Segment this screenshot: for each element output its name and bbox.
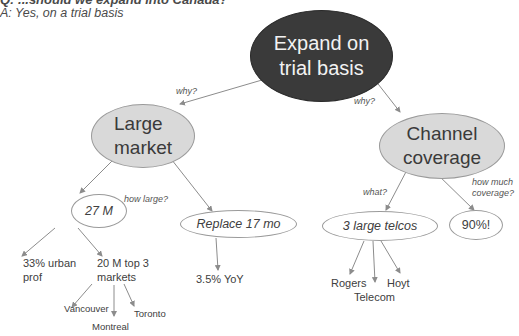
replace-17mo-node: Replace 17 mo [180,210,297,238]
top3-markets-text: 20 M top 3 markets [97,256,149,284]
vancouver-text: Vancouver [64,302,109,316]
edge-label-how-much-coverage: how much coverage? [472,177,514,199]
edge-label-why-left: why? [176,86,197,97]
montreal-text: Montreal [92,320,129,334]
edge-label-what: what? [363,187,387,198]
edge-27m-urban [22,228,55,256]
large-market-label-line2: market [114,136,172,160]
large-market-label-line1: Large [114,112,172,136]
edge-label-how-much-line2: coverage? [472,188,514,199]
edge-large-market-replace [168,155,212,211]
urban-prof-line1: 33% urban [23,256,76,270]
large-market-node: Large market [91,104,195,168]
root-label-line2: trial basis [274,56,370,81]
top3-markets-line1: 20 M top 3 [97,256,149,270]
rogers-text: Rogers [331,276,366,290]
edge-telcos-telecom [373,241,375,282]
edge-top3-toronto [124,284,134,306]
channel-coverage-label-line2: coverage [403,146,481,170]
hoyt-text: Hoyt [387,276,410,290]
edge-label-how-large: how large? [124,194,168,205]
27m-node: 27 M [71,194,127,228]
toronto-text: Toronto [134,307,166,321]
90-percent-node: 90%! [449,210,503,240]
edge-replace-yoy [216,238,218,270]
edge-telcos-hoyt [381,241,400,273]
3-large-telcos-node: 3 large telcos [322,211,438,241]
telecom-text: Telecom [354,290,395,304]
edge-telcos-rogers [350,241,364,274]
edge-label-how-much-line1: how much [472,177,514,188]
urban-prof-line2: prof [23,270,76,284]
root-node: Expand on trial basis [250,10,393,102]
top3-markets-line2: markets [97,270,149,284]
edge-27m-top3 [78,228,102,256]
edge-label-why-right: why? [354,96,375,107]
root-label-line1: Expand on [274,31,370,56]
channel-coverage-node: Channel coverage [379,113,505,179]
yoy-text: 3.5% YoY [196,272,244,286]
urban-prof-text: 33% urban prof [23,256,76,284]
edge-root-channel-coverage [375,80,400,112]
edge-channel-telcos [386,168,408,210]
channel-coverage-label-line1: Channel [403,122,481,146]
